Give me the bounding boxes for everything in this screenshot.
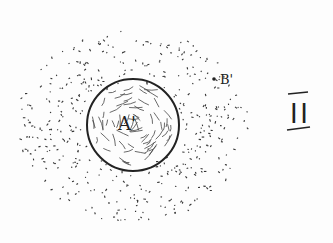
svg-text:II: II (290, 99, 308, 129)
diagram-svg: A' B' II (0, 0, 333, 243)
point-b-dot (212, 77, 216, 81)
point-label: B' (220, 72, 233, 87)
figure-number: II (287, 92, 310, 130)
sphere-label: A' (117, 113, 136, 134)
diagram-canvas: A' B' II (0, 0, 333, 243)
